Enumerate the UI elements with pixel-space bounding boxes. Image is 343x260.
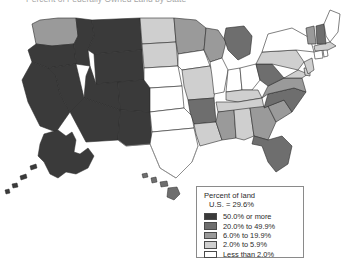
- legend-row[interactable]: 20.0% to 49.9%: [204, 221, 297, 230]
- state-texas[interactable]: [150, 128, 198, 178]
- legend-title: Percent of land: [204, 191, 297, 200]
- legend-label-2: 20.0% to 49.9%: [223, 222, 275, 231]
- state-colorado[interactable]: [118, 80, 150, 112]
- map-canvas: [0, 6, 343, 206]
- state-new-mexico[interactable]: [118, 110, 152, 146]
- state-south-dakota[interactable]: [142, 42, 178, 68]
- state-montana[interactable]: [88, 18, 142, 54]
- hawaii-island-kauai: [142, 173, 148, 178]
- state-kansas[interactable]: [150, 86, 184, 112]
- alaska-aleutian-1: [30, 164, 37, 170]
- state-minnesota[interactable]: [174, 18, 206, 54]
- state-nebraska[interactable]: [144, 66, 182, 88]
- legend-swatch-3: [204, 232, 217, 240]
- page-title: Percent of Federally Owned Land by State: [0, 0, 343, 5]
- legend-row[interactable]: Less than 2.0%: [204, 250, 297, 259]
- state-indiana[interactable]: [226, 68, 242, 92]
- legend-label-5: Less than 2.0%: [223, 250, 274, 259]
- legend-items: 50.0% or more 20.0% to 49.9% 6.0% to 19.…: [204, 212, 297, 259]
- legend-row[interactable]: 50.0% or more: [204, 212, 297, 221]
- choropleth-map-figure: Percent of Federally Owned Land by State: [0, 0, 343, 260]
- state-missouri[interactable]: [182, 66, 216, 100]
- state-wyoming[interactable]: [94, 50, 144, 84]
- state-connecticut[interactable]: [314, 50, 323, 59]
- figure-title-strip: Percent of Federally Owned Land by State: [0, 0, 343, 5]
- state-north-dakota[interactable]: [140, 18, 176, 44]
- alaska-aleutian-3: [12, 183, 18, 188]
- legend-label-1: 50.0% or more: [223, 212, 271, 221]
- legend-subtitle: U.S. = 29.6%: [204, 200, 297, 209]
- legend-swatch-5: [204, 251, 217, 259]
- legend-swatch-2: [204, 222, 217, 230]
- alaska-inset: [5, 130, 94, 194]
- legend-row[interactable]: 6.0% to 19.9%: [204, 231, 297, 240]
- state-maine[interactable]: [324, 10, 340, 42]
- map-legend: Percent of land U.S. = 29.6% 50.0% or mo…: [196, 186, 304, 258]
- alaska-aleutian-2: [20, 174, 27, 180]
- legend-label-3: 6.0% to 19.9%: [223, 231, 271, 240]
- state-washington[interactable]: [32, 18, 78, 46]
- state-florida[interactable]: [252, 136, 292, 172]
- legend-row[interactable]: 2.0% to 5.9%: [204, 240, 297, 249]
- hawaii-island-maui: [160, 181, 168, 187]
- hawaii-island-hawaii[interactable]: [167, 187, 180, 200]
- alaska-aleutian-4: [5, 189, 10, 194]
- legend-swatch-1: [204, 213, 217, 221]
- legend-label-4: 2.0% to 5.9%: [223, 240, 267, 249]
- state-vermont[interactable]: [306, 26, 316, 44]
- hawaii-island-oahu: [151, 177, 157, 183]
- legend-swatch-4: [204, 241, 217, 249]
- us-map-svg: [0, 6, 343, 206]
- state-idaho[interactable]: [74, 18, 94, 66]
- state-michigan[interactable]: [224, 26, 252, 60]
- state-wisconsin[interactable]: [204, 28, 226, 62]
